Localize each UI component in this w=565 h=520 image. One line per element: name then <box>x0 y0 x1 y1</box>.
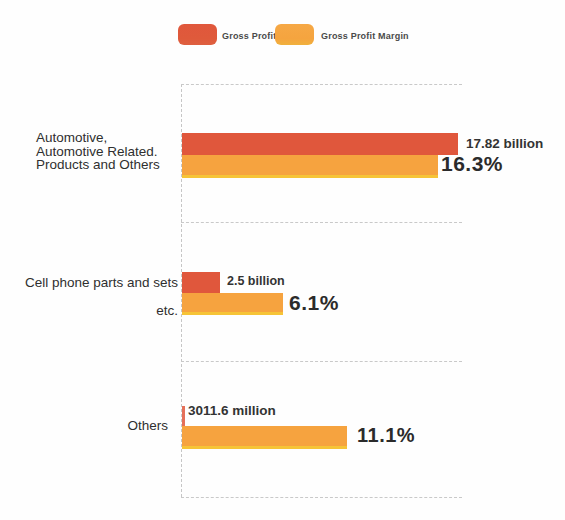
legend-swatch-gross-profit-margin <box>275 24 314 45</box>
gross-profit-margin-value-automotive: 16.3% <box>441 152 503 176</box>
gross-profit-margin-value-cell-phone: 6.1% <box>289 291 339 315</box>
gross-profit-bar-automotive <box>182 133 458 155</box>
gridline-top <box>181 84 462 85</box>
legend-label-gross-profit-margin: Gross Profit Margin <box>321 31 409 41</box>
gross-profit-margin-value-others: 11.1% <box>357 424 415 447</box>
gross-profit-bar-cell-phone <box>182 272 220 293</box>
legend-label-gross-profit: Gross Profit <box>222 31 276 41</box>
category-label-automotive: Automotive, Automotive Related. Products… <box>36 131 178 172</box>
category-label-others: Others <box>80 418 168 433</box>
gridline-band-separator-1 <box>181 222 462 223</box>
category-label-cell-phone-parts: Cell phone parts and sets etc. <box>20 269 178 325</box>
gross-profit-value-others: 3011.6 million <box>188 403 276 418</box>
gridline-bottom <box>181 497 462 498</box>
gross-profit-margin-bar-automotive <box>182 155 438 178</box>
gross-profit-bar-others <box>182 406 185 427</box>
gross-profit-bar-chart: Gross Profit Gross Profit Margin Automot… <box>0 0 565 520</box>
gross-profit-value-cell-phone: 2.5 billion <box>227 274 285 288</box>
legend-swatch-gross-profit <box>178 24 217 45</box>
gross-profit-margin-bar-others <box>182 426 347 449</box>
gross-profit-margin-bar-cell-phone <box>182 293 283 315</box>
gridline-band-separator-2 <box>181 361 462 362</box>
gross-profit-value-automotive: 17.82 billion <box>466 136 543 151</box>
